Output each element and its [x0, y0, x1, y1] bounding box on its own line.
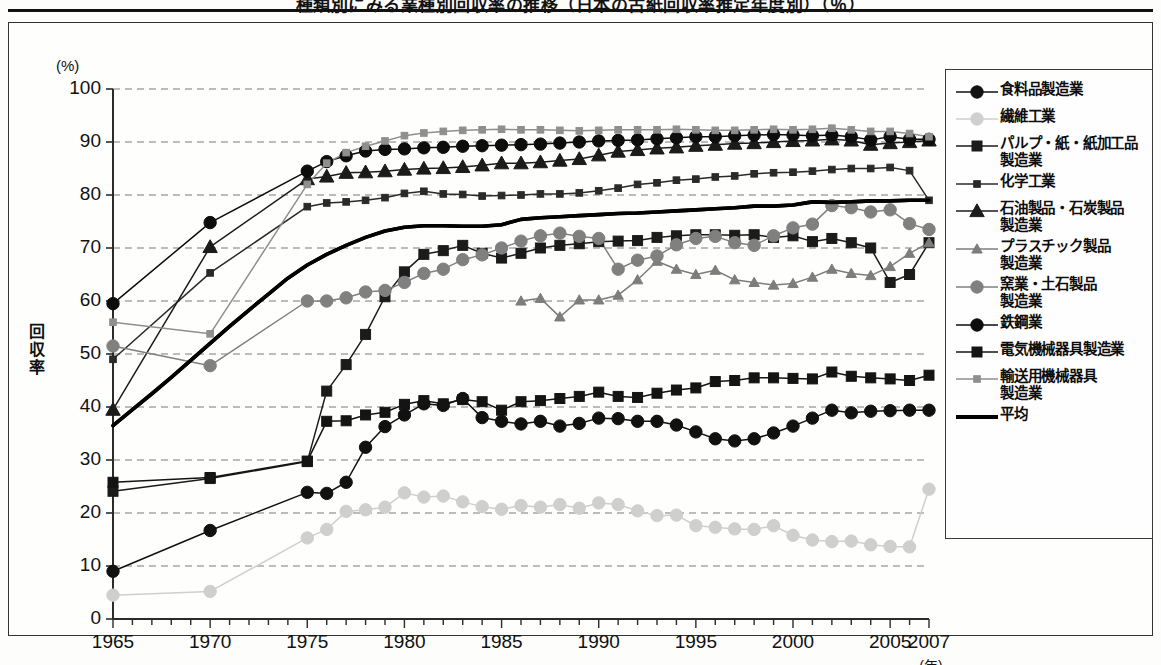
data-point — [866, 243, 876, 253]
legend-item-5[interactable]: プラスチック製品製造業 — [954, 237, 1146, 272]
x-tick-1985: 1985 — [480, 631, 522, 653]
y-tick-10: 10 — [55, 554, 101, 576]
series-markers-6 — [107, 199, 935, 371]
data-point — [340, 476, 352, 488]
data-point — [554, 420, 566, 432]
data-point — [654, 127, 661, 134]
data-point — [343, 199, 350, 206]
data-point — [557, 191, 564, 198]
data-point — [770, 169, 777, 176]
legend-item-1[interactable]: 繊維工業 — [954, 107, 1146, 131]
data-point — [751, 171, 758, 178]
series-markers-2 — [108, 230, 934, 497]
data-point — [693, 176, 700, 183]
data-point — [440, 128, 447, 135]
x-axis-unit: (年) — [919, 655, 942, 665]
x-tick-1965: 1965 — [92, 631, 134, 653]
data-point — [477, 397, 487, 407]
data-point — [437, 141, 449, 153]
data-point — [535, 243, 545, 253]
data-point — [576, 190, 583, 197]
legend-item-label: 平均 — [1000, 405, 1028, 423]
data-point — [107, 589, 119, 601]
series-line — [113, 139, 929, 409]
data-point — [459, 127, 466, 134]
data-point — [767, 427, 779, 439]
data-point — [906, 130, 913, 137]
data-point — [631, 134, 643, 146]
data-point — [573, 502, 585, 514]
data-point — [323, 160, 330, 167]
data-point — [476, 140, 488, 152]
data-point — [359, 286, 371, 298]
legend-marker-square — [954, 368, 1000, 390]
legend-item-6[interactable]: 窯業・土石製品製造業 — [954, 275, 1146, 310]
data-point — [554, 227, 566, 239]
data-point — [497, 405, 507, 415]
series-10 — [113, 200, 929, 425]
data-point — [709, 433, 721, 445]
data-point — [110, 356, 117, 363]
data-point — [362, 197, 369, 204]
legend-item-label: プラスチック製品製造業 — [1000, 237, 1110, 272]
legend-item-9[interactable]: 輸送用機械器具製造業 — [954, 367, 1146, 402]
legend-item-label: 食料品製造業 — [1000, 80, 1083, 98]
series-4 — [113, 139, 929, 409]
legend-item-10[interactable]: 平均 — [954, 405, 1146, 429]
data-point — [806, 412, 818, 424]
data-point — [887, 128, 894, 135]
x-tick-2007: 2007 — [908, 631, 950, 653]
data-point — [807, 374, 817, 384]
legend-item-0[interactable]: 食料品製造業 — [954, 80, 1146, 104]
data-point — [534, 415, 546, 427]
data-point — [634, 181, 641, 188]
data-point — [651, 509, 663, 521]
data-point — [534, 501, 546, 513]
legend-item-7[interactable]: 鉄鋼業 — [954, 313, 1146, 337]
data-point — [437, 263, 449, 275]
data-point — [807, 237, 817, 247]
data-point — [729, 523, 741, 535]
legend-item-4[interactable]: 石油製品・石炭製品製造業 — [954, 199, 1146, 234]
legend-marker-circle — [954, 314, 1000, 336]
legend-item-2[interactable]: パルプ・紙・紙加工品製造業 — [954, 134, 1146, 169]
chart-legend: 食料品製造業繊維工業パルプ・紙・紙加工品製造業化学工業石油製品・石炭製品製造業プ… — [945, 69, 1153, 539]
data-point — [458, 395, 468, 405]
data-point — [615, 127, 622, 134]
x-tick-1990: 1990 — [578, 631, 620, 653]
data-point — [418, 267, 430, 279]
x-tick-1970: 1970 — [189, 631, 231, 653]
data-point — [807, 272, 817, 281]
data-point — [518, 192, 525, 199]
legend-item-8[interactable]: 電気機械器具製造業 — [954, 340, 1146, 364]
data-point — [207, 270, 214, 277]
data-point — [398, 143, 410, 155]
data-point — [399, 399, 409, 409]
data-point — [651, 250, 663, 262]
x-tick-1995: 1995 — [675, 631, 717, 653]
data-point — [379, 501, 391, 513]
y-axis-title: 回収率 — [23, 323, 47, 377]
data-point — [748, 523, 760, 535]
plot-svg — [113, 89, 929, 619]
legend-marker-triangle — [954, 200, 1000, 222]
legend-marker-circle — [954, 81, 1000, 103]
data-point — [593, 232, 605, 244]
data-point — [806, 218, 818, 230]
data-point — [457, 496, 469, 508]
legend-marker-circle — [954, 276, 1000, 298]
legend-marker-line — [954, 406, 1000, 428]
data-point — [748, 433, 760, 445]
data-point — [884, 405, 896, 417]
data-point — [537, 191, 544, 198]
plot-area — [113, 89, 929, 619]
legend-marker-square — [954, 173, 1000, 195]
data-point — [729, 237, 741, 249]
data-point — [924, 370, 934, 380]
series-markers-1 — [107, 483, 935, 601]
series-markers-0 — [107, 392, 935, 577]
legend-marker-square — [954, 135, 1000, 157]
legend-item-3[interactable]: 化学工業 — [954, 172, 1146, 196]
data-point — [712, 127, 719, 134]
data-point — [573, 230, 585, 242]
